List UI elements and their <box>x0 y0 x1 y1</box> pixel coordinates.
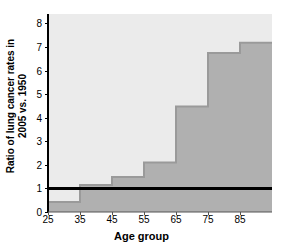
y-tick-mark-8 <box>45 23 48 24</box>
x-tick-mark-55 <box>144 212 145 215</box>
y-tick-mark-6 <box>45 71 48 72</box>
y-tick-label-2: 2 <box>26 159 42 170</box>
x-tick-mark-25 <box>48 212 49 215</box>
x-tick-mark-65 <box>176 212 177 215</box>
x-axis-label: Age group <box>0 230 283 242</box>
x-tick-label-85: 85 <box>234 214 245 225</box>
y-tick-mark-2 <box>45 165 48 166</box>
x-tick-mark-75 <box>208 212 209 215</box>
y-tick-mark-4 <box>45 118 48 119</box>
y-tick-mark-5 <box>45 94 48 95</box>
plot-canvas <box>0 0 283 248</box>
x-tick-label-75: 75 <box>202 214 213 225</box>
x-tick-mark-85 <box>240 212 241 215</box>
x-tick-label-35: 35 <box>74 214 85 225</box>
y-tick-label-4: 4 <box>26 112 42 123</box>
y-tick-label-5: 5 <box>26 89 42 100</box>
x-tick-label-45: 45 <box>106 214 117 225</box>
y-tick-label-7: 7 <box>26 42 42 53</box>
x-tick-label-65: 65 <box>170 214 181 225</box>
y-tick-label-3: 3 <box>26 136 42 147</box>
y-tick-label-0: 0 <box>26 207 42 218</box>
y-tick-mark-7 <box>45 47 48 48</box>
y-tick-mark-3 <box>45 141 48 142</box>
x-tick-mark-45 <box>112 212 113 215</box>
chart-figure: Ratio of lung cancer rates in 2005 vs. 1… <box>0 0 283 248</box>
x-tick-mark-35 <box>80 212 81 215</box>
x-tick-label-25: 25 <box>42 214 53 225</box>
y-tick-label-1: 1 <box>26 183 42 194</box>
x-tick-label-55: 55 <box>138 214 149 225</box>
y-tick-label-8: 8 <box>26 18 42 29</box>
y-tick-label-6: 6 <box>26 65 42 76</box>
y-tick-mark-1 <box>45 188 48 189</box>
